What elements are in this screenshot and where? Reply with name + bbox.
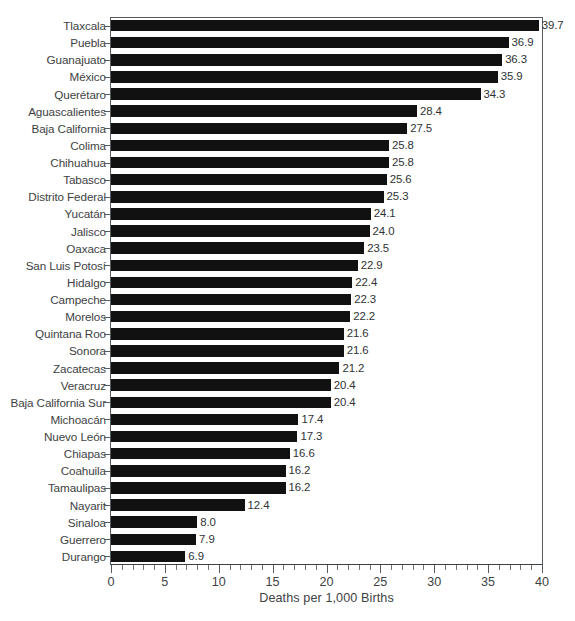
y-axis-tick	[104, 231, 110, 232]
x-tick-minor	[477, 565, 478, 570]
bar-value-label: 17.3	[300, 429, 322, 444]
bar[interactable]	[111, 328, 344, 339]
x-tick-minor	[197, 565, 198, 570]
y-axis-tick	[104, 163, 110, 164]
category-label: Sonora	[69, 342, 106, 359]
bar[interactable]	[111, 534, 196, 545]
bar-value-label: 34.3	[484, 87, 506, 102]
bar-value-label: 21.6	[347, 343, 369, 358]
bar[interactable]	[111, 123, 407, 134]
bar-row: Guanajuato36.3	[0, 51, 575, 68]
x-tick-label: 30	[404, 575, 464, 589]
y-axis-tick	[104, 539, 110, 540]
x-tick-minor	[176, 565, 177, 570]
bar-row: Nayarit12.4	[0, 497, 575, 514]
bar[interactable]	[111, 140, 389, 151]
category-label: Guanajuato	[47, 51, 106, 68]
bar-row: Chihuahua25.8	[0, 154, 575, 171]
bar[interactable]	[111, 260, 358, 271]
bar[interactable]	[111, 362, 339, 373]
x-tick-minor	[154, 565, 155, 570]
category-label: Durango	[62, 548, 106, 565]
bar-value-label: 16.2	[289, 480, 311, 495]
bar[interactable]	[111, 465, 286, 476]
bar-value-label: 25.8	[392, 138, 414, 153]
category-label: Yucatán	[64, 205, 106, 222]
bar[interactable]	[111, 551, 185, 562]
x-tick-minor	[413, 565, 414, 570]
bar[interactable]	[111, 516, 197, 527]
bar[interactable]	[111, 191, 384, 202]
bar[interactable]	[111, 54, 502, 65]
bar[interactable]	[111, 71, 498, 82]
bar[interactable]	[111, 397, 331, 408]
x-tick-label: 10	[189, 575, 249, 589]
bar-rows: Tlaxcala39.7Puebla36.9Guanajuato36.3Méxi…	[0, 17, 575, 565]
bar-row: Veracruz20.4	[0, 377, 575, 394]
bar-row: Morelos22.2	[0, 308, 575, 325]
bar-value-label: 36.3	[505, 52, 527, 67]
bar[interactable]	[111, 174, 387, 185]
bar-value-label: 36.9	[512, 35, 534, 50]
bar[interactable]	[111, 311, 350, 322]
x-tick-minor	[445, 565, 446, 570]
bar-row: Quintana Roo21.6	[0, 325, 575, 342]
bar-value-label: 12.4	[248, 498, 270, 513]
bar[interactable]	[111, 157, 389, 168]
category-label: Campeche	[50, 291, 106, 308]
bar[interactable]	[111, 37, 509, 48]
category-label: Veracruz	[61, 377, 106, 394]
x-tick-major	[111, 565, 112, 573]
bar[interactable]	[111, 208, 371, 219]
y-axis-tick	[104, 145, 110, 146]
bar[interactable]	[111, 482, 286, 493]
x-tick-minor	[251, 565, 252, 570]
y-axis-tick	[104, 505, 110, 506]
bar-value-label: 21.6	[347, 326, 369, 341]
x-tick-minor	[294, 565, 295, 570]
y-axis-tick	[104, 248, 110, 249]
category-label: Chihuahua	[50, 154, 106, 171]
bar[interactable]	[111, 225, 370, 236]
bar[interactable]	[111, 294, 351, 305]
category-label: Guerrero	[60, 531, 106, 548]
category-label: Coahuila	[61, 462, 106, 479]
x-tick-minor	[186, 565, 187, 570]
bar[interactable]	[111, 499, 245, 510]
x-tick-minor	[499, 565, 500, 570]
x-tick-minor	[337, 565, 338, 570]
x-axis-title: Deaths per 1,000 Births	[110, 591, 543, 605]
category-label: Chiapas	[64, 445, 106, 462]
bar[interactable]	[111, 379, 331, 390]
bar[interactable]	[111, 414, 298, 425]
bar[interactable]	[111, 242, 364, 253]
bar[interactable]	[111, 345, 344, 356]
x-tick-minor	[391, 565, 392, 570]
bar-value-label: 25.6	[390, 172, 412, 187]
y-axis-tick	[104, 60, 110, 61]
bar-row: Nuevo León17.3	[0, 428, 575, 445]
y-axis-tick	[104, 282, 110, 283]
y-axis-tick	[104, 522, 110, 523]
category-label: Michoacán	[50, 411, 106, 428]
bar-row: Tabasco25.6	[0, 171, 575, 188]
bar-row: Tlaxcala39.7	[0, 17, 575, 34]
bar[interactable]	[111, 20, 539, 31]
bar-row: Campeche22.3	[0, 291, 575, 308]
bar[interactable]	[111, 105, 417, 116]
bar[interactable]	[111, 448, 290, 459]
bar-row: Zacatecas21.2	[0, 360, 575, 377]
y-axis-tick	[104, 351, 110, 352]
bar-row: San Luis Potosí22.9	[0, 257, 575, 274]
y-axis-tick	[104, 77, 110, 78]
bar[interactable]	[111, 277, 352, 288]
bar-value-label: 16.6	[293, 446, 315, 461]
x-tick-minor	[520, 565, 521, 570]
x-tick-minor	[456, 565, 457, 570]
x-tick-major	[219, 565, 220, 573]
category-label: Querétaro	[54, 86, 106, 103]
x-tick-minor	[510, 565, 511, 570]
bar[interactable]	[111, 88, 481, 99]
bar[interactable]	[111, 431, 297, 442]
bar-value-label: 16.2	[289, 463, 311, 478]
